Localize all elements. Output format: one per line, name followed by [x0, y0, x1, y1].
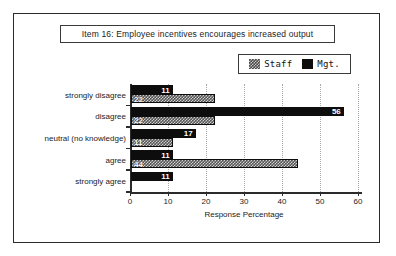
legend-swatch-staff-icon — [249, 59, 260, 69]
legend-label-mgt: Mgt. — [317, 59, 339, 69]
x-tick-label: 20 — [202, 197, 211, 206]
bar-value-label: 56 — [332, 107, 341, 116]
bar-value-label: 22 — [134, 116, 143, 125]
y-tick — [126, 148, 130, 150]
legend-swatch-mgt-icon — [302, 59, 313, 69]
gridline — [358, 84, 360, 192]
y-axis-category-label: disagree — [95, 112, 126, 121]
legend-entry-staff: Staff — [249, 59, 292, 69]
y-tick — [126, 126, 130, 128]
y-tick — [126, 191, 130, 193]
x-tick — [168, 192, 169, 196]
bar-staff: 44 — [131, 159, 298, 168]
y-tick — [126, 105, 130, 107]
x-tick — [282, 192, 283, 196]
bar-mgt: 11 — [131, 172, 173, 181]
bar-staff: 22 — [131, 94, 215, 103]
bar-value-label: 11 — [161, 172, 169, 181]
bar-value-label: 11 — [134, 138, 142, 147]
bar-mgt: 17 — [131, 129, 196, 138]
gridline — [320, 84, 322, 192]
bar-value-label: 44 — [134, 159, 143, 168]
bar-value-label: 11 — [161, 85, 169, 94]
bar-mgt: 11 — [131, 85, 173, 94]
bar-value-label: 22 — [134, 94, 143, 103]
x-axis-label: Response Percentage — [130, 210, 358, 219]
bar-value-label: 17 — [184, 129, 193, 138]
x-tick-label: 40 — [278, 197, 287, 206]
x-tick-label: 10 — [164, 197, 173, 206]
x-tick-label: 50 — [316, 197, 325, 206]
x-axis-line — [130, 192, 362, 194]
x-tick-label: 60 — [354, 197, 363, 206]
chart-title-box: Item 16: Employee incentives encourages … — [60, 25, 335, 43]
chart-figure: Item 16: Employee incentives encourages … — [13, 13, 380, 243]
x-tick — [320, 192, 321, 196]
y-axis-category-label: strongly disagree — [65, 90, 126, 99]
x-tick-label: 30 — [240, 197, 249, 206]
legend-entry-mgt: Mgt. — [302, 59, 339, 69]
x-tick-label: 0 — [128, 197, 132, 206]
bar-mgt: 11 — [131, 150, 173, 159]
gridline — [282, 84, 284, 192]
bar-value-label: 11 — [161, 150, 169, 159]
bar-staff: 22 — [131, 116, 215, 125]
y-tick — [126, 169, 130, 171]
y-axis-category-label: strongly agree — [75, 177, 126, 186]
bar-staff: 11 — [131, 138, 173, 147]
gridline — [244, 84, 246, 192]
legend-label-staff: Staff — [264, 59, 292, 69]
bar-mgt: 56 — [131, 107, 344, 116]
y-axis-category-label: neutral (no knowledge) — [45, 134, 126, 143]
x-tick — [358, 192, 359, 196]
chart-title: Item 16: Employee incentives encourages … — [82, 29, 313, 39]
x-tick — [130, 192, 131, 196]
chart-legend: Staff Mgt. — [238, 54, 351, 74]
x-tick — [244, 192, 245, 196]
y-axis-category-label: agree — [106, 155, 126, 164]
x-tick — [206, 192, 207, 196]
plot-area: 0102030405060 strongly disagree1122disag… — [130, 84, 358, 192]
